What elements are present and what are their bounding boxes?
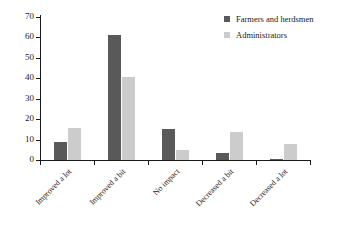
bar — [230, 132, 243, 160]
bar — [68, 128, 81, 160]
y-axis-tick-label: 20 — [10, 114, 34, 123]
y-axis-tick-label: 70 — [10, 12, 34, 21]
legend-item: Administrators — [224, 30, 313, 40]
bar-group — [162, 17, 189, 160]
bar-group — [108, 17, 135, 160]
bar — [284, 144, 297, 160]
x-axis-tick — [256, 161, 257, 165]
x-axis-category-label: Decreased a lot — [241, 167, 290, 216]
y-axis-tick-label: 50 — [10, 53, 34, 62]
bar-chart-figure: Percentage/% 010203040506070 Improved a … — [0, 0, 341, 225]
y-axis-tick-label: 40 — [10, 73, 34, 82]
x-axis-category-label: Decreased a bit — [187, 167, 236, 216]
x-axis-category-label: Improved a lot — [25, 167, 74, 216]
x-axis-line — [40, 160, 311, 161]
x-axis-tick — [94, 161, 95, 165]
x-axis-tick — [40, 161, 41, 165]
bar — [270, 159, 283, 160]
bar — [216, 153, 229, 160]
bar — [122, 77, 135, 160]
y-axis-tick-label: 10 — [10, 135, 34, 144]
legend-item: Farmers and herdsmen — [224, 14, 313, 24]
legend-swatch-icon — [224, 16, 230, 22]
bar-group — [54, 17, 81, 160]
y-axis-tick-label: 60 — [10, 32, 34, 41]
bar — [54, 142, 67, 160]
y-axis-tick-label: 0 — [10, 155, 34, 164]
x-axis-category-label: Improved a bit — [79, 167, 128, 216]
bar — [108, 35, 121, 160]
legend-swatch-icon — [224, 32, 230, 38]
legend-label: Administrators — [236, 31, 287, 40]
bar — [162, 129, 175, 160]
y-axis-tick-label: 30 — [10, 94, 34, 103]
legend-label: Farmers and herdsmen — [236, 15, 313, 24]
x-axis-category-label: No impact — [133, 167, 182, 216]
x-axis-tick — [310, 161, 311, 165]
chart-legend: Farmers and herdsmenAdministrators — [224, 14, 313, 46]
x-axis-tick — [148, 161, 149, 165]
bar — [176, 150, 189, 160]
x-axis-tick — [202, 161, 203, 165]
